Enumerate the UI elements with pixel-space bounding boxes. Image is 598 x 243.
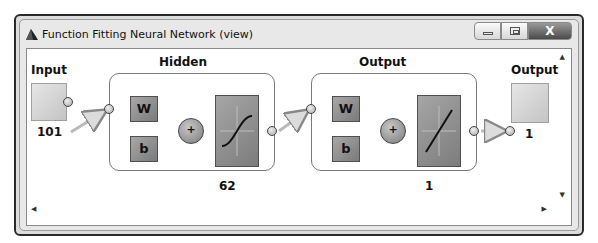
output-layer-output-port	[469, 126, 479, 136]
hidden-input-port	[104, 104, 114, 114]
output-layer-size: 1	[425, 179, 433, 193]
output-layer-title: Output	[359, 55, 406, 69]
output-sum-node[interactable]: +	[380, 118, 406, 144]
output-label: Output	[511, 63, 558, 77]
purelin-icon	[418, 96, 460, 166]
maximize-button[interactable]	[501, 22, 528, 40]
hidden-transfer-block[interactable]	[215, 95, 259, 167]
hidden-output-port	[267, 126, 277, 136]
hidden-bias-block[interactable]: b	[130, 136, 158, 162]
minimize-button[interactable]	[474, 22, 501, 40]
hidden-weight-block[interactable]: W	[130, 96, 158, 122]
hidden-sum-node[interactable]: +	[178, 118, 204, 144]
output-size: 1	[525, 127, 533, 141]
matlab-icon	[24, 27, 40, 43]
output-bias-block[interactable]: b	[332, 136, 360, 162]
output-transfer-block[interactable]	[417, 95, 461, 167]
title-bar[interactable]: Function Fitting Neural Network (view) X	[24, 26, 574, 46]
input-port	[63, 97, 73, 107]
window-controls: X	[474, 22, 572, 42]
input-size: 101	[37, 125, 62, 139]
tansig-icon	[216, 96, 258, 166]
window-title: Function Fitting Neural Network (view)	[42, 28, 253, 41]
hidden-layer-size: 62	[219, 179, 236, 193]
output-port	[505, 126, 515, 136]
diagram-canvas: ▲ ▼ ◀ ▶	[26, 48, 572, 226]
hidden-layer-title: Hidden	[159, 55, 207, 69]
minimize-icon	[483, 32, 493, 35]
close-button[interactable]: X	[528, 22, 572, 40]
input-block[interactable]	[31, 83, 67, 121]
output-block[interactable]	[511, 83, 549, 123]
maximize-icon	[510, 27, 520, 35]
input-label: Input	[31, 63, 67, 77]
output-weight-block[interactable]: W	[332, 96, 360, 122]
network-view-window: Function Fitting Neural Network (view) X…	[14, 14, 584, 236]
close-icon: X	[545, 24, 554, 38]
output-layer-input-port	[306, 104, 316, 114]
